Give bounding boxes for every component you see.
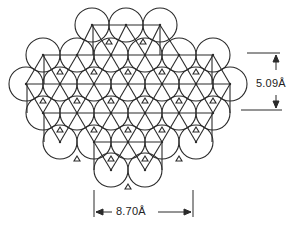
lattice-edge — [162, 55, 179, 84]
atom-center-dot — [59, 83, 61, 85]
atom-center-dot — [161, 83, 163, 85]
interstitial-site — [108, 156, 114, 161]
atom-center-dot — [195, 141, 197, 143]
atom-center-dot — [212, 54, 214, 56]
atom-center-dot — [42, 112, 44, 114]
interstitial-site — [125, 184, 131, 189]
interstitial-site — [142, 156, 148, 161]
atom-center-dot — [127, 141, 129, 143]
lattice-edge — [145, 25, 160, 55]
lattice-lines — [26, 25, 230, 189]
interstitial-site — [57, 69, 63, 74]
atom-center-dot — [59, 141, 61, 143]
atom-center-dot — [110, 169, 112, 171]
lattice-edge — [111, 55, 128, 84]
lattice-edge — [162, 84, 179, 113]
interstitial-site — [106, 39, 112, 44]
lattice-edge — [145, 55, 162, 84]
lattice-edge — [111, 84, 128, 113]
lattice-edge — [94, 55, 111, 84]
lattice-edge — [77, 84, 94, 113]
lattice-edge — [111, 142, 128, 170]
lattice-edge — [213, 55, 230, 84]
interstitial-site — [159, 127, 165, 132]
atom-center-dot — [178, 54, 180, 56]
lattice-edge — [162, 113, 179, 142]
interstitial-site — [91, 127, 97, 132]
interstitial-site — [125, 127, 131, 132]
atom-center-dot — [144, 54, 146, 56]
lattice-edge — [94, 142, 111, 170]
interstitial-site — [108, 98, 114, 103]
atom-center-dot — [144, 169, 146, 171]
interstitial-site — [176, 156, 182, 161]
vertical-dimension-label: 5.09Å — [256, 77, 286, 89]
lattice-edge — [196, 113, 213, 142]
lattice-edge — [196, 55, 213, 84]
lattice-edge — [77, 55, 94, 84]
atom-center-dot — [110, 54, 112, 56]
lattice-edge — [94, 113, 111, 142]
lattice-edge — [179, 55, 196, 84]
interstitial-site — [74, 98, 80, 103]
atom-center-dot — [110, 112, 112, 114]
lattice-edge — [60, 84, 77, 113]
lattice-edge — [43, 84, 60, 113]
interstitial-site — [91, 69, 97, 74]
horizontal-dimension-label: 8.70Å — [116, 205, 146, 217]
interstitial-site — [40, 98, 46, 103]
crystal-structure-diagram — [0, 0, 298, 225]
lattice-edge — [128, 113, 145, 142]
atom-center-dot — [161, 141, 163, 143]
interstitial-site — [74, 156, 80, 161]
lattice-edge — [213, 84, 230, 113]
lattice-edge — [145, 84, 162, 113]
atom-center-dot — [195, 83, 197, 85]
atom-center-dot — [212, 112, 214, 114]
interstitial-site — [57, 127, 63, 132]
lattice-edge — [43, 55, 60, 84]
interstitial-site — [142, 98, 148, 103]
lattice-edge — [43, 113, 60, 142]
lattice-edge — [77, 25, 92, 55]
lattice-edge — [179, 113, 196, 142]
lattice-edge — [26, 84, 43, 113]
lattice-edge — [196, 84, 213, 113]
interstitial-site — [210, 98, 216, 103]
interstitial-site — [125, 69, 131, 74]
lattice-edge — [145, 113, 162, 142]
atom-centers — [25, 24, 231, 171]
atom-center-dot — [93, 141, 95, 143]
atom-center-dot — [93, 83, 95, 85]
interstitial-site — [193, 69, 199, 74]
atom-center-dot — [144, 112, 146, 114]
lattice-edge — [111, 113, 128, 142]
interstitial-site — [159, 69, 165, 74]
atom-center-dot — [25, 83, 27, 85]
lattice-edge — [94, 84, 111, 113]
atom-center-dot — [178, 112, 180, 114]
lattice-edge — [128, 142, 145, 170]
lattice-edge — [179, 84, 196, 113]
lattice-edge — [60, 55, 77, 84]
atom-center-dot — [159, 24, 161, 26]
interstitial-site — [140, 39, 146, 44]
atom-circles — [9, 8, 247, 187]
atom-center-dot — [76, 112, 78, 114]
atom-center-dot — [125, 24, 127, 26]
interstitial-site — [176, 98, 182, 103]
lattice-edge — [26, 55, 43, 84]
atom-center-dot — [76, 54, 78, 56]
interstitial-site — [193, 127, 199, 132]
atom-center-dot — [127, 83, 129, 85]
atom-center-dot — [229, 83, 231, 85]
atom-center-dot — [91, 24, 93, 26]
lattice-edge — [111, 25, 126, 55]
lattice-edge — [128, 55, 145, 84]
lattice-edge — [60, 113, 77, 142]
atom-center-dot — [42, 54, 44, 56]
lattice-edge — [77, 113, 94, 142]
lattice-edge — [145, 142, 162, 170]
lattice-edge — [128, 84, 145, 113]
